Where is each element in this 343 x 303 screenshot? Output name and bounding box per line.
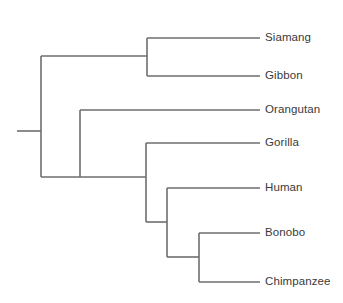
- tip-label-orangutan: Orangutan: [265, 104, 320, 116]
- phylogenetic-tree-figure: Siamang Gibbon Orangutan Gorilla Human B…: [0, 0, 343, 303]
- tip-label-chimpanzee: Chimpanzee: [265, 276, 331, 288]
- tip-label-gorilla: Gorilla: [265, 137, 299, 149]
- tip-label-human: Human: [265, 182, 303, 194]
- tip-label-siamang: Siamang: [265, 32, 311, 44]
- tree-branch-diagram: [0, 0, 343, 303]
- tip-label-gibbon: Gibbon: [265, 70, 303, 82]
- tip-label-bonobo: Bonobo: [265, 227, 305, 239]
